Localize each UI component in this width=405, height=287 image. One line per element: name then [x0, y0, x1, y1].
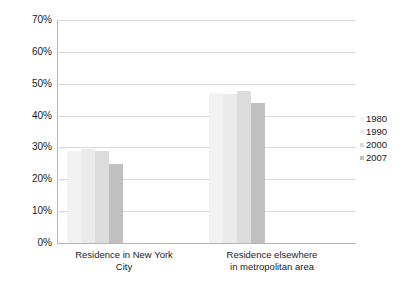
legend-label: 2007 [366, 151, 387, 164]
y-tick-label: 60% [6, 47, 52, 57]
y-tick-label: 0% [6, 238, 52, 248]
x-axis-label-line: Residence elsewhere [197, 249, 347, 261]
bar-2000 [237, 91, 251, 243]
legend-swatch-icon [360, 143, 364, 147]
x-axis-label: Residence in New YorkCity [57, 249, 191, 272]
y-tick-label: 10% [6, 206, 52, 216]
legend-swatch-icon [360, 117, 364, 121]
legend-item-2007: 2007 [360, 151, 405, 164]
y-tick-label: 30% [6, 142, 52, 152]
legend-item-1980: 1980 [360, 112, 405, 125]
bar-group [67, 20, 123, 243]
y-tick-label: 40% [6, 111, 52, 121]
y-axis-tick-labels: 0%10%20%30%40%50%60%70% [0, 20, 52, 243]
gridline-0% [57, 243, 356, 244]
bar-1980 [209, 93, 223, 243]
y-tick-label: 20% [6, 174, 52, 184]
legend: 1980199020002007 [360, 112, 405, 164]
bar-1990 [81, 149, 95, 243]
legend-item-2000: 2000 [360, 138, 405, 151]
x-axis-label-line: in metropolitan area [197, 261, 347, 273]
bar-2007 [109, 164, 123, 243]
x-axis-label-line: City [57, 261, 191, 273]
legend-item-1990: 1990 [360, 125, 405, 138]
bar-chart: 0%10%20%30%40%50%60%70% Residence in New… [0, 0, 405, 287]
bar-1990 [223, 94, 237, 243]
bar-2000 [95, 151, 109, 243]
x-axis-label-line: Residence in New York [57, 249, 191, 261]
bar-1980 [67, 151, 81, 243]
bar-2007 [251, 103, 265, 243]
bar-group [209, 20, 265, 243]
y-tick-label: 70% [6, 15, 52, 25]
legend-swatch-icon [360, 156, 364, 160]
y-tick-label: 50% [6, 79, 52, 89]
x-axis-label: Residence elsewherein metropolitan area [197, 249, 347, 272]
legend-swatch-icon [360, 130, 364, 134]
legend-label: 1990 [366, 125, 387, 138]
legend-label: 2000 [366, 138, 387, 151]
plot-area [57, 20, 356, 243]
legend-label: 1980 [366, 112, 387, 125]
